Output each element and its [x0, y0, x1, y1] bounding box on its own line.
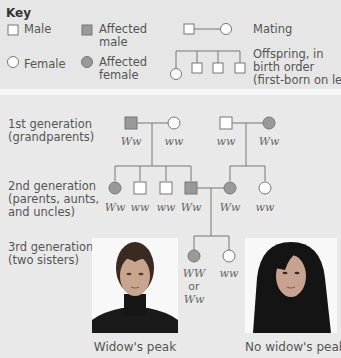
- gen3-genotype-1c: Ww: [179, 294, 209, 306]
- gen2-affected-female-icon-2: [224, 182, 236, 194]
- gen1-genotype-4: Ww: [254, 136, 284, 148]
- no-widows-peak-caption: No widow's peak: [245, 340, 337, 354]
- gen3-genotype-1a: WW: [179, 268, 209, 280]
- key-offspring-male-icon-3: [235, 63, 245, 73]
- no-widows-peak-photo: [245, 238, 337, 333]
- key-male-square-icon: [8, 25, 18, 35]
- gen1-genotype-1: Ww: [116, 136, 146, 148]
- gen1-affected-male-icon: [125, 117, 137, 129]
- gen2-genotype-5: Ww: [215, 202, 245, 214]
- gen3-genotype-2: ww: [214, 268, 244, 280]
- gen1-label: 1st generation (grandparents): [8, 118, 94, 144]
- gen2-affected-male-icon: [185, 182, 197, 194]
- key-female-circle-icon: [8, 57, 19, 68]
- gen2-female-icon: [259, 182, 271, 194]
- key-offspring-female-icon: [171, 69, 182, 80]
- key-mating-male-icon: [184, 24, 194, 34]
- gen1-female-icon: [168, 117, 180, 129]
- gen2-label: 2nd generation (parents, aunts, and uncl…: [8, 180, 99, 219]
- gen3-genotype-1b: or: [179, 281, 209, 293]
- key-offspring-male-icon-1: [192, 63, 202, 73]
- key-offspring-male-icon-2: [213, 63, 223, 73]
- gen1-male-icon: [220, 117, 232, 129]
- gen3-label: 3rd generation (two sisters): [8, 241, 93, 267]
- gen3-female-icon: [223, 250, 235, 262]
- gen2-genotype-6: ww: [250, 202, 280, 214]
- gen2-genotype-4: Ww: [176, 202, 206, 214]
- key-mating-female-icon: [221, 24, 232, 35]
- widows-peak-caption: Widow's peak: [92, 340, 178, 354]
- widows-peak-photo: [92, 238, 178, 333]
- gen1-genotype-2: ww: [159, 136, 189, 148]
- key-affected-female-circle-icon: [82, 57, 93, 68]
- gen1-affected-female-icon: [263, 117, 275, 129]
- gen1-genotype-3: ww: [211, 136, 241, 148]
- gen2-affected-female-icon: [109, 182, 121, 194]
- gen2-male-icon-1: [134, 182, 146, 194]
- gen2-male-icon-2: [160, 182, 172, 194]
- gen3-affected-female-icon: [188, 250, 200, 262]
- key-affected-male-square-icon: [82, 25, 92, 35]
